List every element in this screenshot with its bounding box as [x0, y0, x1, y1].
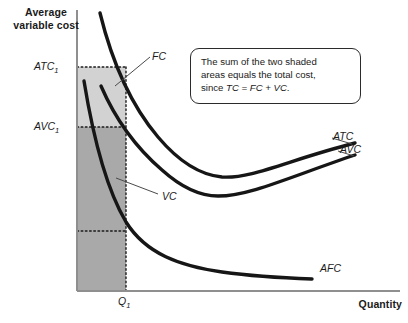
tick-atc1-text: ATC [34, 60, 54, 72]
avc-curve-label: AVC [340, 143, 361, 155]
callout-line-3: since TC = FC + VC. [201, 82, 351, 95]
y-axis-title-line1: Average [10, 6, 82, 19]
callout-formula: TC = FC + VC [226, 82, 287, 93]
tick-avc1-subscript: 1 [55, 126, 59, 135]
callout-line-1: The sum of the two shaded [201, 56, 351, 69]
tick-q1-text: Q [118, 295, 126, 307]
fixed-cost-region-label: FC [152, 50, 166, 62]
variable-cost-region-label: VC [162, 190, 177, 202]
tick-avc1-text: AVC [34, 120, 55, 132]
y-axis-title: Average variable cost [10, 6, 82, 32]
cost-curves-figure: Average variable cost Quantity ATC1 AVC1… [0, 0, 408, 323]
tick-atc1-subscript: 1 [54, 66, 58, 75]
callout-line3-prefix: since [201, 82, 226, 93]
x-axis-title: Quantity [330, 298, 402, 311]
afc-curve-label: AFC [320, 262, 341, 274]
y-tick-label-atc1: ATC1 [34, 60, 58, 75]
callout-line-2: areas equals the total cost, [201, 69, 351, 82]
x-tick-label-q1: Q1 [118, 295, 130, 310]
y-tick-label-avc1: AVC1 [34, 120, 59, 135]
tick-q1-subscript: 1 [126, 301, 130, 310]
y-axis-title-line2: variable cost [10, 19, 82, 32]
callout-line3-suffix: . [287, 82, 290, 93]
atc-curve-label: ATC [333, 130, 353, 142]
callout-note: The sum of the two shaded areas equals t… [190, 48, 361, 104]
